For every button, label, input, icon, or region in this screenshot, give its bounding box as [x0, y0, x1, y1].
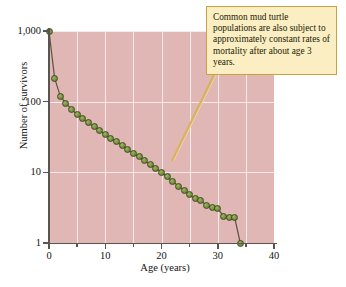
- x-axis-tick: [273, 243, 275, 249]
- gridline-horizontal: [49, 102, 274, 103]
- data-point-marker: [214, 205, 221, 212]
- x-axis-tick-minor: [189, 243, 191, 247]
- x-axis-tick: [48, 243, 50, 249]
- data-point-marker: [231, 214, 238, 221]
- callout-annotation: Common mud turtle populations are also s…: [206, 6, 337, 75]
- x-axis-tick-label: 20: [142, 251, 182, 261]
- y-axis-label: Number of survivors: [18, 41, 29, 171]
- y-axis-tick: [43, 30, 49, 32]
- survivorship-figure: 1101001,000 010203040 Number of survivor…: [0, 0, 346, 287]
- gridline-vertical-minor: [133, 31, 134, 243]
- y-axis-tick-label: 1: [0, 238, 41, 248]
- x-axis-tick: [161, 243, 163, 249]
- x-axis-tick-label: 40: [254, 251, 294, 261]
- y-axis-tick: [43, 172, 49, 174]
- gridline-vertical: [162, 31, 163, 243]
- y-axis-tick-label: 1,000: [0, 26, 41, 36]
- x-axis-label: Age (years): [90, 262, 240, 273]
- x-axis-tick-label: 0: [29, 251, 69, 261]
- y-axis-tick: [43, 101, 49, 103]
- y-axis-line: [48, 28, 50, 246]
- x-axis-tick: [217, 243, 219, 249]
- data-point-marker: [51, 75, 58, 82]
- x-axis-tick-label: 10: [85, 251, 125, 261]
- x-axis-tick-minor: [245, 243, 247, 247]
- x-axis-tick-minor: [133, 243, 135, 247]
- x-axis-tick: [105, 243, 107, 249]
- gridline-vertical-minor: [190, 31, 191, 243]
- x-axis-tick-minor: [76, 243, 78, 247]
- x-axis-tick-label: 30: [198, 251, 238, 261]
- data-point-marker: [57, 93, 64, 100]
- gridline-vertical-minor: [77, 31, 78, 243]
